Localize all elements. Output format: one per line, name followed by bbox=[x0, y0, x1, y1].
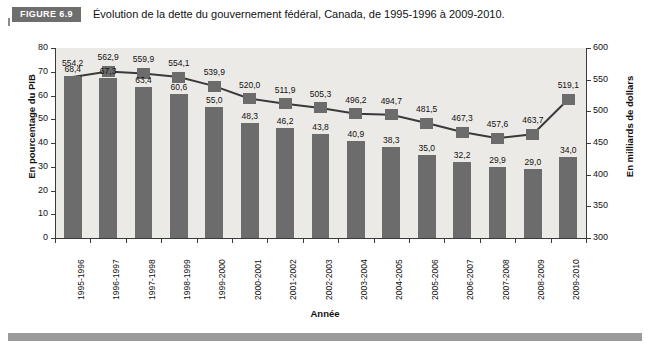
figure-bottom-bar bbox=[8, 333, 642, 341]
bar-value-label: 40,9 bbox=[338, 130, 373, 139]
x-axis-tick-label: 2003-2004 bbox=[360, 259, 369, 300]
line-value-label: 505,3 bbox=[303, 90, 338, 99]
line-value-label: 457,6 bbox=[480, 120, 515, 129]
bar-value-label: 60,6 bbox=[161, 83, 196, 92]
bar-value-label: 67,3 bbox=[90, 67, 125, 76]
line-value-label: 554,1 bbox=[161, 59, 196, 68]
x-axis-tick-label: 1998-1999 bbox=[183, 259, 192, 300]
line-marker-square bbox=[562, 94, 575, 105]
line-value-label: 554,2 bbox=[55, 59, 90, 68]
line-value-label: 562,9 bbox=[90, 53, 125, 62]
x-axis-tick-label: 2001-2002 bbox=[289, 259, 298, 300]
line-marker-square bbox=[314, 102, 327, 113]
bar-value-label: 34,0 bbox=[551, 146, 586, 155]
line-value-label: 520,0 bbox=[232, 81, 267, 90]
line-marker-square bbox=[208, 81, 221, 92]
bar-value-label: 29,9 bbox=[480, 156, 515, 165]
bar-value-label: 46,2 bbox=[267, 117, 302, 126]
x-axis-tick-label: 2002-2003 bbox=[325, 259, 334, 300]
line-marker-dash bbox=[66, 76, 80, 79]
x-axis-tick-label: 2009-2010 bbox=[572, 259, 581, 300]
chart-area: 01020304050607080 300350400450500550600 … bbox=[8, 26, 642, 326]
x-axis-tick-label: 2007-2008 bbox=[502, 259, 511, 300]
line-value-label: 559,9 bbox=[126, 55, 161, 64]
line-marker-square bbox=[491, 133, 504, 144]
x-axis-tick-label: 1999-2000 bbox=[218, 259, 227, 300]
line-value-label: 496,2 bbox=[338, 96, 373, 105]
line-value-label: 481,5 bbox=[409, 105, 444, 114]
line-value-label: 494,7 bbox=[374, 97, 409, 106]
y-axis-left-title: En pourcentage du PIB bbox=[26, 72, 37, 182]
x-axis-tick-label: 2006-2007 bbox=[466, 259, 475, 300]
bar-value-label: 43,8 bbox=[303, 123, 338, 132]
line-marker-square bbox=[385, 109, 398, 120]
bar-value-label: 48,3 bbox=[232, 112, 267, 121]
line-value-label: 463,7 bbox=[515, 116, 550, 125]
line-marker-square bbox=[172, 72, 185, 83]
line-marker-square bbox=[456, 127, 469, 138]
bar-value-label: 29,0 bbox=[515, 158, 550, 167]
x-axis-tick-label: 2000-2001 bbox=[254, 259, 263, 300]
bar-value-label: 38,3 bbox=[374, 136, 409, 145]
bar-value-label: 32,2 bbox=[444, 151, 479, 160]
figure-title: Évolution de la dette du gouvernement fé… bbox=[93, 8, 505, 20]
x-axis-tick-label: 1995-1996 bbox=[77, 259, 86, 300]
bar-value-label: 55,0 bbox=[197, 96, 232, 105]
bar-value-label: 63,4 bbox=[126, 76, 161, 85]
line-marker-square bbox=[243, 93, 256, 104]
x-axis-tick-label: 2008-2009 bbox=[537, 259, 546, 300]
line-value-label: 467,3 bbox=[444, 114, 479, 123]
line-marker-square bbox=[349, 108, 362, 119]
x-axis-title: Année bbox=[8, 308, 642, 319]
x-axis-tick-label: 2005-2006 bbox=[431, 259, 440, 300]
y-axis-right-title: En milliards de dollars bbox=[624, 62, 635, 192]
x-axis-tick-label: 1997-1998 bbox=[148, 259, 157, 300]
figure-root: FIGURE 6.9 Évolution de la dette du gouv… bbox=[0, 0, 650, 348]
bar-value-label: 35,0 bbox=[409, 144, 444, 153]
x-axis-tick-label: 1996-1997 bbox=[112, 259, 121, 300]
line-value-label: 511,9 bbox=[267, 86, 302, 95]
figure-header: FIGURE 6.9 Évolution de la dette du gouv… bbox=[12, 4, 505, 24]
figure-number-badge: FIGURE 6.9 bbox=[12, 7, 81, 22]
line-value-label: 539,9 bbox=[197, 68, 232, 77]
x-axis-tick-label: 2004-2005 bbox=[395, 259, 404, 300]
line-marker-square bbox=[279, 98, 292, 109]
line-marker-square bbox=[420, 118, 433, 129]
line-marker-square bbox=[526, 129, 539, 140]
line-value-label: 519,1 bbox=[551, 81, 586, 90]
